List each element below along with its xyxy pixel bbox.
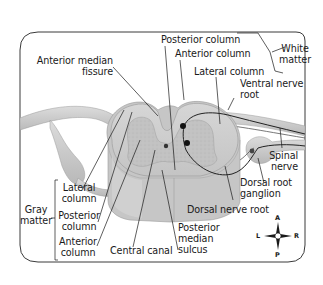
label-line: matter <box>20 215 52 226</box>
label-line: median <box>178 233 220 244</box>
label-anterior-median-fissure: Anterior median fissure <box>33 55 113 77</box>
label-spinal-nerve: Spinal nerve <box>262 150 298 172</box>
motor-neuron-dot <box>180 123 186 129</box>
label-dorsal-root-ganglion: Dorsal root ganglion <box>240 177 292 199</box>
label-line: sulcus <box>178 244 220 255</box>
ganglion-dot <box>250 149 255 154</box>
label-line: Spinal <box>262 150 298 161</box>
label-line: root <box>240 89 303 100</box>
label-line: Anterior <box>56 236 100 247</box>
sensory-neuron-dot <box>184 140 190 146</box>
label-line: Posterior <box>56 210 102 221</box>
label-line: Gray <box>20 204 52 215</box>
label-central-canal: Central canal <box>110 245 172 256</box>
label-line: Lateral <box>58 182 100 193</box>
label-lateral-column-gray: Lateral column <box>58 182 100 204</box>
compass-label-anterior: A <box>275 214 280 222</box>
compass-label-right: R <box>294 232 299 240</box>
label-white-matter: White matter <box>278 43 312 65</box>
label-line: Posterior <box>178 222 220 233</box>
label-anterior-column-gray: Anterior column <box>56 236 100 258</box>
compass-label-posterior: P <box>275 251 280 259</box>
compass-label-left: L <box>256 232 260 240</box>
label-line: column <box>58 193 100 204</box>
label-posterior-column-gray: Posterior column <box>56 210 102 232</box>
label-line: Anterior median <box>33 55 113 66</box>
label-line: matter <box>278 54 312 65</box>
label-line: Dorsal root <box>240 177 292 188</box>
label-line: column <box>56 247 100 258</box>
label-lateral-column-white: Lateral column <box>194 66 264 77</box>
label-ventral-nerve-root: Ventral nerve root <box>240 78 303 100</box>
label-line: Ventral nerve <box>240 78 303 89</box>
label-line: column <box>56 221 102 232</box>
label-line: ganglion <box>240 188 292 199</box>
label-posterior-column-white: Posterior column <box>161 34 240 45</box>
label-line: nerve <box>262 161 298 172</box>
label-anterior-column-white: Anterior column <box>175 48 251 59</box>
label-posterior-median-sulcus: Posterior median sulcus <box>178 222 220 255</box>
label-line: fissure <box>33 66 113 77</box>
label-dorsal-nerve-root: Dorsal nerve root <box>187 204 269 215</box>
label-line: White <box>278 43 312 54</box>
label-gray-matter: Gray matter <box>20 204 52 226</box>
